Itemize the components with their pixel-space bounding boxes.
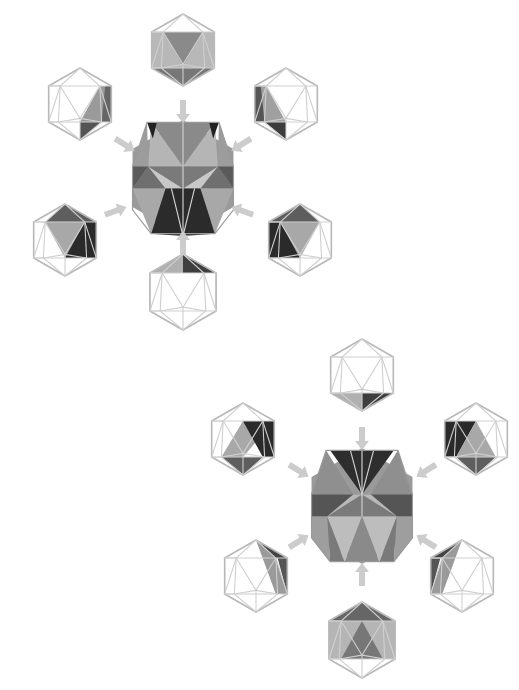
arrow-lower-left-to-center-b: [285, 529, 312, 553]
satellite-icosahedron-upper-left: [49, 68, 112, 140]
arrow-upper-right-to-center-b: [413, 459, 440, 483]
satellite-icosahedron-lower-left-b: [225, 540, 288, 612]
satellite-icosahedron-lower-right: [269, 204, 332, 276]
satellite-icosahedron-bottom-b: [329, 602, 395, 678]
icosahedra-diagram: [0, 0, 519, 690]
satellite-icosahedron-upper-right: [255, 68, 318, 140]
arrow-lower-left-to-center: [102, 200, 128, 221]
satellite-icosahedron-lower-right-b: [431, 540, 494, 612]
arrow-top-to-center: [176, 100, 190, 123]
satellite-icosahedron-lower-left: [34, 204, 97, 276]
arrow-bottom-to-center-b: [355, 563, 369, 586]
arrow-top-to-center-b: [355, 427, 369, 450]
satellite-icosahedron-upper-right-b: [445, 403, 508, 475]
satellite-icosahedron-top-b: [331, 339, 394, 411]
cluster-top: [34, 14, 332, 330]
satellite-icosahedron-upper-left-b: [212, 403, 275, 475]
central-icosahedron-bottom: [312, 448, 413, 564]
arrow-lower-right-to-center-b: [413, 529, 440, 553]
satellite-icosahedron-top: [152, 14, 215, 86]
cluster-bottom: [212, 339, 508, 678]
satellite-icosahedron-bottom: [150, 254, 216, 330]
central-icosahedron-top: [133, 120, 234, 236]
arrow-upper-left-to-center-b: [285, 459, 312, 483]
